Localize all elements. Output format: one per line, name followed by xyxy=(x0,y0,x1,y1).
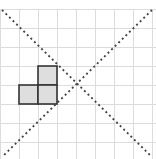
shape-cell xyxy=(38,85,57,104)
grid-diagram xyxy=(0,0,156,159)
shape-cell xyxy=(38,66,57,85)
l-shaped-tromino xyxy=(19,66,57,104)
shape-cell xyxy=(19,85,38,104)
